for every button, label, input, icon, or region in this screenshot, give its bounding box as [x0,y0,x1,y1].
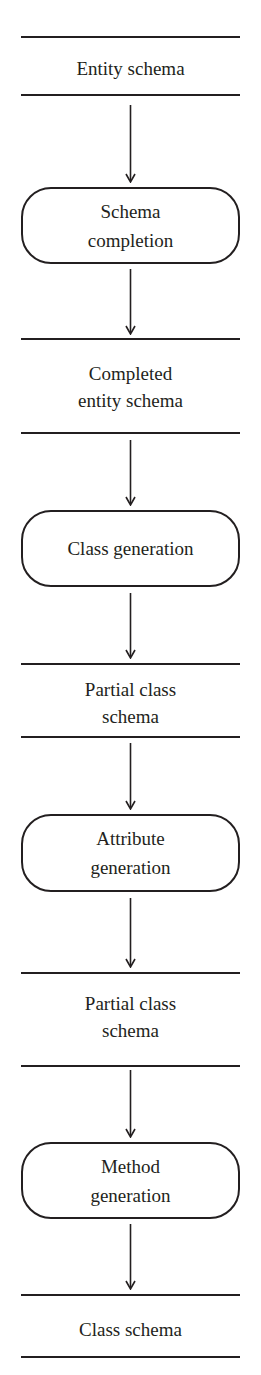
class-generation-box: Class generation [21,510,240,587]
arrow-class-gen-to-partial-1 [125,593,136,659]
partial-class-schema-1-line-2: schema [21,703,240,730]
arrow-down-icon [125,898,136,968]
partial-class-schema-1-bottom-line [21,736,240,738]
arrow-down-icon [125,269,136,335]
arrow-down-icon [125,743,136,810]
completed-entity-schema-line-1: Completed [21,360,240,387]
entity-schema-bottom-line [21,94,240,96]
arrow-method-gen-to-class-schema [125,1224,136,1290]
attribute-generation-line-1: Attribute [90,824,170,853]
completed-entity-schema-top-line [21,338,240,340]
arrow-down-icon [125,440,136,506]
partial-class-schema-1-top-line [21,663,240,665]
arrow-partial-1-to-attribute-gen [125,743,136,810]
method-generation-line-1: Method [90,1152,170,1181]
arrow-completed-to-class-gen [125,440,136,506]
partial-class-schema-2-label: Partial class schema [21,990,240,1044]
completed-entity-schema-bottom-line [21,432,240,434]
arrow-partial-2-to-method-gen [125,1070,136,1138]
arrow-completion-to-completed [125,269,136,335]
attribute-generation-box: Attribute generation [21,814,240,892]
completed-entity-schema-line-2: entity schema [21,387,240,414]
arrow-down-icon [125,1224,136,1290]
completed-entity-schema-label: Completed entity schema [21,360,240,414]
schema-completion-box: Schema completion [21,187,240,264]
partial-class-schema-2-bottom-line [21,1065,240,1067]
arrow-down-icon [125,1070,136,1138]
attribute-generation-line-2: generation [90,853,170,882]
schema-completion-line-1: Schema [88,197,173,226]
partial-class-schema-2-top-line [21,972,240,974]
schema-completion-line-2: completion [88,226,173,255]
method-generation-box: Method generation [21,1142,240,1219]
entity-schema-line-1: Entity schema [76,58,184,79]
class-schema-label: Class schema [21,1318,240,1341]
arrow-down-icon [125,593,136,659]
method-generation-line-2: generation [90,1181,170,1210]
class-schema-bottom-line [21,1356,240,1358]
arrow-down-icon [125,105,136,183]
entity-schema-label: Entity schema [21,57,240,80]
partial-class-schema-1-label: Partial class schema [21,676,240,730]
entity-schema-top-line [21,36,240,38]
partial-class-schema-1-line-1: Partial class [21,676,240,703]
partial-class-schema-2-line-1: Partial class [21,990,240,1017]
arrow-attribute-gen-to-partial-2 [125,898,136,968]
arrow-entity-to-completion [125,105,136,183]
class-schema-line-1: Class schema [79,1319,182,1340]
class-generation-line-1: Class generation [67,534,193,563]
partial-class-schema-2-line-2: schema [21,1017,240,1044]
class-schema-top-line [21,1294,240,1296]
